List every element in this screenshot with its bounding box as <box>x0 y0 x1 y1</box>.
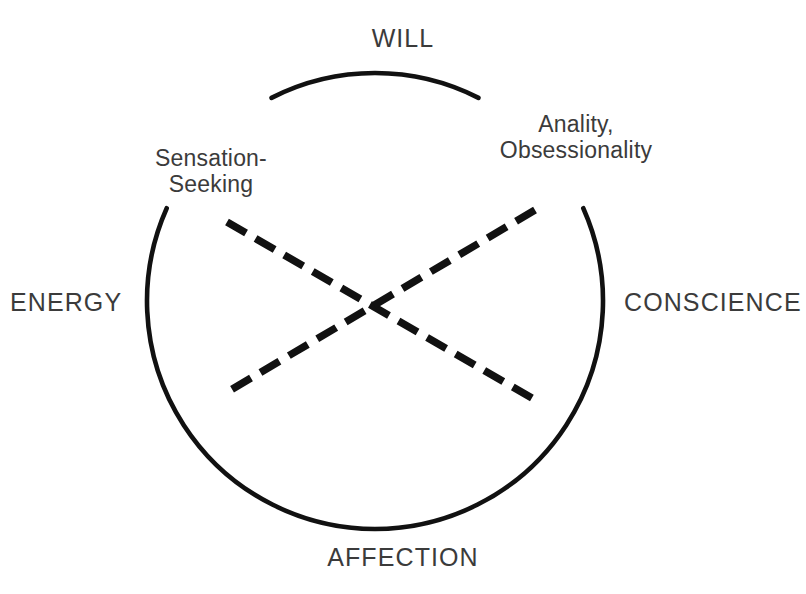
trait-label-line: Seeking <box>118 171 304 197</box>
pole-label-energy: ENERGY <box>10 288 140 318</box>
circle-arc-top <box>271 73 478 98</box>
pole-label-will: WILL <box>0 24 806 54</box>
trait-label-line: Obsessionality <box>480 137 672 163</box>
trait-label-line: Sensation- <box>118 145 304 171</box>
trait-label-sensation-seeking: Sensation- Seeking <box>118 145 304 197</box>
dashed-axis-sensation-seeking <box>227 222 532 398</box>
circle-arc-main <box>147 208 603 529</box>
pole-label-affection: AFFECTION <box>0 543 806 573</box>
trait-label-anality-obsessionality: Anality, Obsessionality <box>480 111 672 163</box>
circumplex-diagram: WILL CONSCIENCE AFFECTION ENERGY Sensati… <box>0 0 806 594</box>
pole-label-conscience: CONSCIENCE <box>624 288 804 318</box>
trait-label-line: Anality, <box>480 111 672 137</box>
dashed-axis-anality-obsessionality <box>224 210 535 394</box>
